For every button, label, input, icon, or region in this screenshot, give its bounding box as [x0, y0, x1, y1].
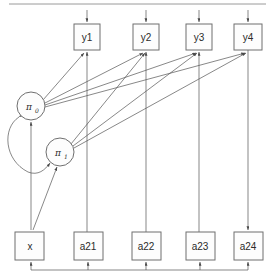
node-x[interactable]: x	[15, 232, 44, 260]
node-y2[interactable]: y2	[133, 24, 159, 50]
path-diagram-canvas: y1 y2 y3 y4 π 0 π 1 x	[0, 0, 274, 276]
node-y1[interactable]: y1	[74, 24, 100, 50]
edge-pi0-to-y3	[45, 53, 196, 105]
node-y4-label: y4	[243, 32, 254, 43]
edge-pi0-to-y2	[45, 53, 143, 103]
node-a22-label: a22	[138, 241, 155, 252]
node-a21[interactable]: a21	[74, 232, 103, 260]
edge-pi1-to-y4	[74, 53, 246, 148]
node-a23-label: a23	[192, 241, 209, 252]
edge-pi0-to-y1	[43, 53, 84, 100]
node-a24-label: a24	[240, 241, 257, 252]
node-a22[interactable]: a22	[132, 232, 161, 260]
edge-pi1-to-y2	[71, 53, 145, 144]
edge-pi0-pi1-covariance	[8, 117, 50, 173]
node-y3[interactable]: y3	[186, 24, 212, 50]
node-a23[interactable]: a23	[186, 232, 215, 260]
node-a24[interactable]: a24	[234, 232, 263, 260]
edge-pi1-to-y3	[73, 53, 197, 146]
node-y1-label: y1	[82, 32, 93, 43]
node-y3-label: y3	[194, 32, 205, 43]
edge-x-to-pi1	[33, 167, 57, 230]
node-pi0[interactable]: π 0	[17, 92, 45, 120]
node-pi0-label: π	[25, 102, 33, 112]
node-pi1[interactable]: π 1	[46, 138, 74, 166]
node-pi0-subscript: 0	[35, 107, 39, 114]
node-y4[interactable]: y4	[234, 24, 262, 50]
diagram-svg: y1 y2 y3 y4 π 0 π 1 x	[0, 0, 274, 276]
node-x-label: x	[28, 241, 33, 252]
node-pi1-subscript: 1	[64, 153, 68, 160]
node-pi1-label: π	[54, 148, 62, 158]
edge-pi0-to-y4	[45, 53, 245, 107]
node-a21-label: a21	[80, 241, 97, 252]
node-y2-label: y2	[141, 32, 152, 43]
